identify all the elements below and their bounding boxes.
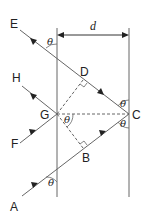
arrowhead-e xyxy=(30,38,37,45)
theta-label-c-upper: θ xyxy=(120,98,126,109)
point-label-f: F xyxy=(11,137,18,151)
point-label-c: C xyxy=(132,108,141,122)
right-angle-b xyxy=(80,141,87,145)
point-label-d: D xyxy=(80,65,89,79)
point-label-h: H xyxy=(12,71,21,85)
ray-f-to-g xyxy=(20,114,57,143)
ray-c-to-e xyxy=(20,30,129,114)
point-label-e: E xyxy=(10,17,18,31)
theta-label-e: θ xyxy=(47,36,53,47)
ray-a-to-c xyxy=(22,114,129,196)
arrowhead-h xyxy=(30,93,37,100)
arrowhead-f xyxy=(29,129,36,135)
point-label-b: B xyxy=(82,151,90,165)
diagram-canvas: d θ θ θ θ θ E D H G C F B A xyxy=(0,0,146,222)
distance-arrowhead-left xyxy=(57,32,64,38)
distance-label: d xyxy=(90,19,97,33)
point-label-g: G xyxy=(40,108,49,122)
theta-label-c-lower: θ xyxy=(120,118,126,129)
dashed-g-to-d xyxy=(57,80,83,114)
point-label-a: A xyxy=(10,200,18,214)
theta-label-g: θ xyxy=(64,114,70,125)
right-angle-d xyxy=(80,83,87,87)
theta-label-a: θ xyxy=(48,177,54,188)
distance-arrowhead-right xyxy=(122,32,129,38)
arrowhead-d-c xyxy=(97,88,104,95)
